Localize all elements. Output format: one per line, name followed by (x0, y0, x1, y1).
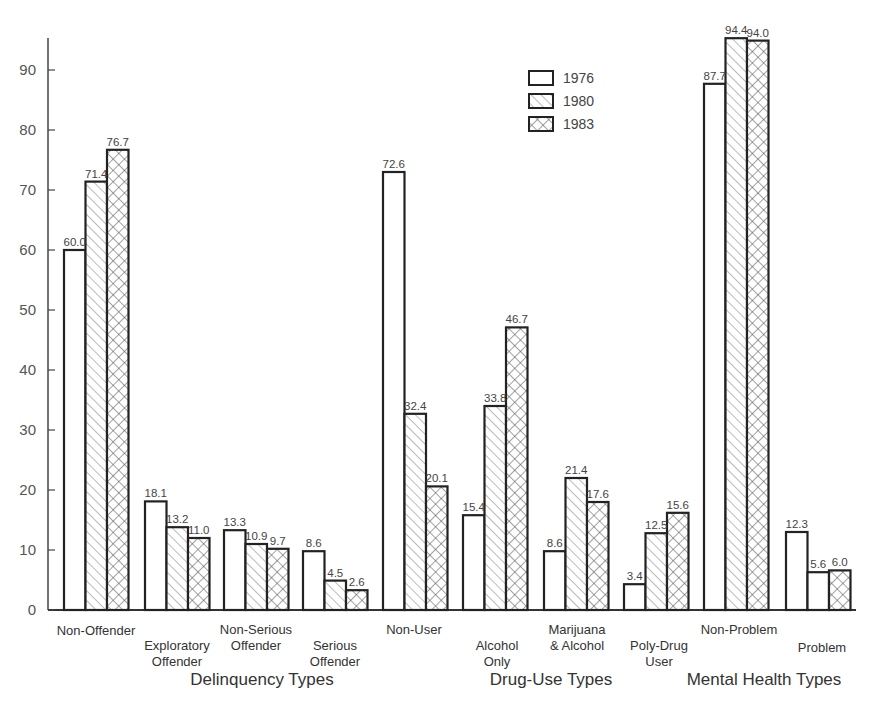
legend-label: 1983 (563, 116, 594, 132)
bar-1976 (383, 172, 405, 610)
value-label: 94.0 (747, 27, 769, 39)
bar-1983 (506, 327, 528, 610)
group-label: Drug-Use Types (490, 670, 613, 689)
bar-1980 (808, 572, 830, 610)
value-label: 12.5 (645, 519, 667, 531)
bar-1976 (704, 84, 726, 610)
y-tick-label: 60 (19, 241, 36, 258)
bar-1980 (325, 581, 347, 610)
y-tick-label: 80 (19, 121, 36, 138)
value-label: 72.6 (383, 158, 405, 170)
legend-swatch-1980 (529, 94, 553, 108)
legend-label: 1980 (563, 93, 594, 109)
bar-1976 (544, 551, 566, 610)
bar-1983 (587, 502, 609, 610)
bar-1983 (426, 486, 448, 610)
category-label: Non-Problem (701, 622, 778, 637)
category-label: Non-Offender (57, 623, 136, 638)
legend: 197619801983 (529, 70, 594, 132)
value-label: 17.6 (587, 488, 609, 500)
y-tick-label: 0 (28, 601, 36, 618)
value-label: 87.7 (704, 70, 726, 82)
category-label: Non-User (386, 622, 442, 637)
value-label: 13.2 (166, 513, 188, 525)
value-label: 10.9 (245, 530, 267, 542)
value-label: 5.6 (810, 558, 826, 570)
bar-1983 (346, 590, 368, 610)
legend-swatch-1983 (529, 117, 553, 131)
value-label: 76.7 (107, 136, 129, 148)
bar-1983 (188, 538, 210, 610)
bar-1980 (485, 406, 507, 610)
bar-1976 (786, 532, 808, 610)
bar-1980 (726, 38, 748, 610)
value-label: 46.7 (506, 313, 528, 325)
bar-1980 (405, 414, 427, 610)
bar-1983 (667, 513, 689, 610)
value-label: 8.6 (547, 537, 563, 549)
bar-1976 (624, 584, 646, 610)
category-label: Problem (798, 640, 846, 655)
y-tick-label: 40 (19, 361, 36, 378)
bar-1983 (107, 150, 129, 610)
bar-1980 (566, 478, 588, 610)
y-tick-label: 30 (19, 421, 36, 438)
value-label: 4.5 (327, 567, 343, 579)
group-label: Delinquency Types (190, 670, 333, 689)
value-label: 15.6 (667, 499, 689, 511)
bar-1983 (267, 549, 289, 610)
bar-1983 (829, 570, 851, 610)
bar-1983 (747, 41, 769, 610)
value-label: 12.3 (786, 518, 808, 530)
value-label: 8.6 (306, 537, 322, 549)
bar-1976 (145, 501, 167, 610)
value-label: 18.1 (145, 487, 167, 499)
legend-swatch-1976 (529, 71, 553, 85)
bar-1980 (167, 527, 189, 610)
y-tick-label: 90 (19, 61, 36, 78)
category-label: Poly-DrugUser (630, 638, 688, 669)
bar-1980 (646, 533, 668, 610)
value-label: 9.7 (270, 535, 286, 547)
value-label: 6.0 (832, 556, 848, 568)
bar-1976 (64, 250, 86, 610)
category-label: Marijuana& Alcohol (548, 622, 606, 653)
value-label: 15.4 (463, 501, 486, 513)
value-label: 94.4 (725, 24, 748, 36)
category-label: ExploratoryOffender (144, 638, 210, 669)
y-tick-label: 70 (19, 181, 36, 198)
value-label: 21.4 (565, 464, 588, 476)
value-label: 3.4 (627, 570, 644, 582)
bar-1976 (224, 530, 246, 610)
category-label: SeriousOffender (310, 638, 361, 669)
value-label: 2.6 (349, 576, 365, 588)
bar-chart: 0102030405060708090 60.071.476.718.113.2… (0, 0, 884, 718)
legend-label: 1976 (563, 70, 594, 86)
bar-1976 (463, 515, 485, 610)
bar-1976 (303, 551, 325, 610)
category-label: AlcoholOnly (476, 638, 519, 669)
y-tick-label: 20 (19, 481, 36, 498)
value-label: 32.4 (404, 400, 427, 412)
y-tick-label: 50 (19, 301, 36, 318)
group-label: Mental Health Types (687, 670, 842, 689)
value-label: 71.4 (85, 168, 108, 180)
bar-1980 (86, 182, 108, 610)
bar-1980 (246, 544, 268, 610)
value-label: 11.0 (188, 524, 210, 536)
value-label: 60.0 (64, 236, 86, 248)
value-label: 33.8 (484, 392, 506, 404)
category-label: Non-SeriousOffender (220, 622, 293, 653)
y-tick-label: 10 (19, 541, 36, 558)
value-label: 13.3 (224, 516, 246, 528)
value-label: 20.1 (426, 472, 448, 484)
